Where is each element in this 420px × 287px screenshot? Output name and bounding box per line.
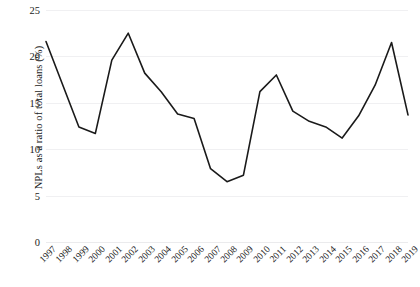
series-line: [46, 33, 408, 181]
y-tick-label-25: 25: [30, 5, 41, 16]
plot-area: 0510152025: [46, 10, 408, 242]
gridline-0: [46, 242, 408, 243]
y-tick-label-20: 20: [30, 51, 41, 62]
series-layer: [46, 10, 408, 242]
x-axis-ticks: 1997199819992000200120022003200420052006…: [46, 244, 408, 287]
y-tick-label-10: 10: [30, 144, 41, 155]
y-tick-label-15: 15: [30, 97, 41, 108]
y-tick-label-5: 5: [35, 190, 40, 201]
y-tick-label-0: 0: [35, 237, 40, 248]
